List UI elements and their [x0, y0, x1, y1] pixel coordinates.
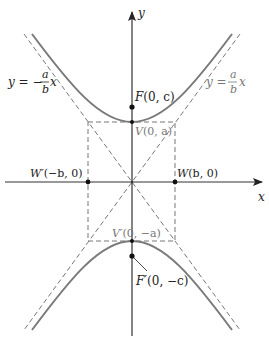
- covertex-left-label: W′(−b, 0): [30, 167, 83, 180]
- hyperbola-figure: x y F(0, c) V(0, a) V′(0, −a) F′(0, −c) …: [0, 0, 269, 342]
- covertex-right-coords: (b, 0): [188, 167, 218, 180]
- vertex-top-point: [130, 120, 134, 124]
- asymptote-positive-equation: y = a b x: [205, 68, 246, 96]
- covertex-left-coords: (−b, 0): [44, 167, 83, 180]
- focus-top-coords: (0, c): [143, 90, 174, 104]
- focus-bottom-coords: (0, −c): [147, 274, 188, 288]
- vertex-top-label: V(0, a): [135, 125, 172, 138]
- asymptote-negative-equation: y = − a b x: [7, 68, 57, 96]
- focus-bottom-leader: [134, 258, 147, 271]
- asymptote-negative-lhs: y = −: [7, 75, 43, 89]
- vertex-bottom-name: V′: [112, 227, 123, 240]
- focus-bottom-name: F′: [135, 274, 147, 288]
- focus-bottom-point: [129, 253, 134, 258]
- asymptote-positive-lhs: y =: [205, 75, 227, 89]
- asymptote-positive-num: a: [230, 68, 237, 81]
- origin-point: [131, 181, 133, 183]
- vertex-top-coords: (0, a): [143, 125, 172, 138]
- asymptote-negative-num: a: [42, 68, 49, 81]
- asymptote-negative-var: x: [50, 75, 57, 89]
- focus-bottom-label: F′(0, −c): [135, 274, 188, 288]
- x-axis-label: x: [258, 190, 265, 204]
- focus-top-point: [129, 104, 134, 109]
- covertex-right-label: W(b, 0): [177, 167, 218, 180]
- asymptote-positive-var: x: [239, 75, 246, 89]
- vertex-bottom-label: V′(0, −a): [112, 227, 161, 240]
- y-axis-label: y: [137, 6, 145, 20]
- asymptote-positive-den: b: [230, 83, 237, 96]
- covertex-right-point: [173, 180, 178, 185]
- covertex-left-point: [86, 180, 91, 185]
- focus-top-label: F(0, c): [134, 90, 175, 104]
- covertex-left-name: W′: [30, 167, 44, 180]
- vertex-bottom-coords: (0, −a): [122, 227, 160, 240]
- asymptote-negative-den: b: [42, 83, 49, 96]
